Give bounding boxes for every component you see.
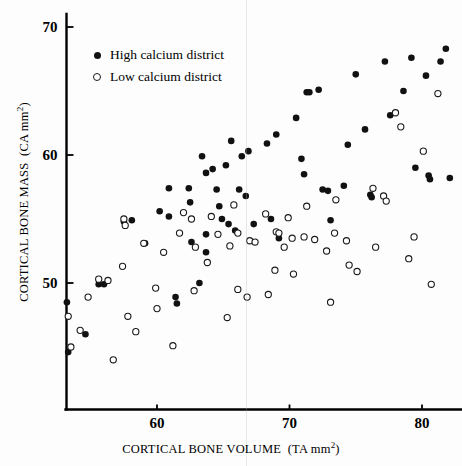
data-point (180, 210, 186, 216)
data-point (153, 285, 159, 291)
data-point (203, 249, 210, 256)
data-point (236, 186, 243, 193)
data-point (224, 314, 230, 320)
data-point (166, 213, 173, 220)
data-point (252, 239, 258, 245)
data-point (368, 194, 375, 201)
data-point (373, 244, 379, 250)
series-high-calcium (64, 45, 454, 355)
legend-item-low-calcium: Low calcium district (84, 66, 294, 88)
data-point (327, 217, 334, 224)
data-point (268, 216, 275, 223)
data-point (412, 165, 419, 172)
data-point (324, 248, 330, 254)
data-point (235, 286, 241, 292)
data-point (239, 153, 246, 160)
data-point (156, 208, 163, 215)
data-point (293, 115, 300, 122)
data-point (312, 236, 318, 242)
data-point (285, 215, 291, 221)
legend-item-high-calcium: High calcium district (84, 44, 294, 66)
data-point (301, 171, 308, 178)
data-point (170, 343, 176, 349)
data-point (435, 90, 441, 96)
y-axis-title-wrapper: CORTICAL BONE MASS (CA mm2) (14, 2, 34, 402)
data-point (370, 185, 376, 191)
data-point (219, 216, 226, 223)
data-point (154, 306, 160, 312)
data-point (362, 126, 369, 133)
filled-circle-icon (84, 52, 110, 59)
data-point (423, 72, 430, 79)
data-point (289, 235, 295, 241)
data-point (231, 202, 237, 208)
data-point (265, 291, 271, 297)
data-point (68, 344, 74, 350)
data-point (119, 263, 125, 269)
y-tick-label-60: 60 (43, 147, 58, 163)
data-point (85, 294, 91, 300)
x-tick-label-60: 60 (150, 415, 165, 431)
data-point (64, 299, 71, 306)
data-point (428, 281, 434, 287)
data-point (346, 262, 352, 268)
data-point (343, 238, 349, 244)
data-point (141, 240, 147, 246)
data-point (196, 280, 203, 287)
x-tick-label-80: 80 (415, 415, 430, 431)
data-point (192, 244, 198, 250)
data-point (341, 182, 348, 189)
data-point (382, 58, 389, 65)
data-point (250, 221, 257, 228)
data-point (383, 198, 389, 204)
legend-label-high-calcium: High calcium district (110, 47, 224, 63)
data-point (447, 175, 454, 182)
open-circle-icon (84, 73, 110, 81)
legend-label-low-calcium: Low calcium district (110, 69, 222, 85)
data-point (304, 203, 310, 209)
data-point (125, 313, 131, 319)
data-point (216, 203, 223, 210)
data-point (420, 148, 426, 154)
data-point (273, 131, 280, 138)
data-point (110, 357, 116, 363)
data-point (392, 110, 398, 116)
data-point (161, 249, 167, 255)
data-point (105, 277, 111, 283)
data-point (65, 313, 71, 319)
data-point (263, 211, 269, 217)
data-point (290, 271, 296, 277)
data-point (325, 188, 332, 195)
data-point (228, 138, 235, 145)
data-point (298, 156, 305, 163)
y-axis-title-close: ) (17, 102, 31, 106)
data-point (209, 166, 216, 173)
data-point (301, 234, 307, 240)
data-point (96, 276, 102, 282)
data-point (272, 267, 278, 273)
data-point (203, 231, 210, 238)
y-axis-title-exponent: 2 (15, 107, 25, 112)
data-point (227, 243, 233, 249)
y-axis-title-main: CORTICAL BONE MASS (17, 163, 31, 302)
data-point (408, 54, 415, 61)
data-point (333, 197, 339, 203)
data-point (176, 230, 182, 236)
data-point (215, 231, 221, 237)
data-point (345, 141, 352, 148)
data-point (400, 88, 407, 95)
y-tick-label-50: 50 (43, 275, 58, 291)
data-point (306, 89, 313, 96)
legend: High calcium district Low calcium distri… (84, 44, 294, 88)
data-point (264, 140, 271, 147)
data-point (235, 230, 241, 236)
data-point (411, 234, 417, 240)
data-point (203, 170, 210, 177)
data-point (281, 244, 287, 250)
data-point (186, 185, 193, 192)
data-point (225, 221, 232, 228)
data-point (187, 199, 194, 206)
data-point (172, 294, 179, 301)
data-point (437, 58, 444, 65)
data-point (121, 216, 127, 222)
